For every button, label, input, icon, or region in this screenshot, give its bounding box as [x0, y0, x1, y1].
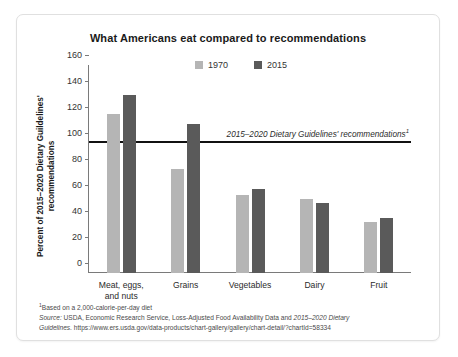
- bar-2015[interactable]: [316, 203, 329, 273]
- x-axis-label: Grains: [173, 280, 198, 291]
- x-axis-label: Vegetables: [229, 280, 272, 291]
- source-url: https://www.ers.usda.gov/data-products/c…: [72, 324, 331, 331]
- source-italic-b: Guidelines.: [39, 324, 72, 331]
- bar-groups: Meat, eggs,and nutsGrainsVegetablesDairy…: [89, 65, 411, 273]
- y-axis-tick: 80: [72, 154, 89, 164]
- y-axis-tick: 160: [67, 50, 89, 60]
- bar-group: Vegetables: [218, 65, 282, 273]
- y-axis-tick: 0: [77, 258, 89, 268]
- bar-1970[interactable]: [364, 222, 377, 273]
- source-line-2: Guidelines. https://www.ers.usda.gov/dat…: [39, 323, 423, 333]
- chart-footnotes: 1Based on a 2,000-calorie-per-day diet S…: [39, 302, 423, 333]
- bar-2015[interactable]: [252, 189, 265, 274]
- y-axis-tick: 20: [72, 232, 89, 242]
- bar-1970[interactable]: [300, 199, 313, 273]
- plot-wrapper: Percent of 2015–2020 Dietary Guildelines…: [17, 15, 439, 340]
- bar-1970[interactable]: [236, 195, 249, 273]
- y-axis-tick: 120: [67, 102, 89, 112]
- x-axis-label: Dairy: [304, 280, 324, 291]
- source-line-1: Source: USDA, Economic Research Service,…: [39, 313, 423, 323]
- bar-2015[interactable]: [187, 124, 200, 274]
- y-axis-tick: 100: [67, 128, 89, 138]
- bar-group: Dairy: [282, 65, 346, 273]
- footnote-line: 1Based on a 2,000-calorie-per-day diet: [39, 302, 423, 313]
- bar-2015[interactable]: [380, 218, 393, 273]
- x-axis-label: Fruit: [370, 280, 387, 291]
- bar-1970[interactable]: [171, 169, 184, 273]
- bar-1970[interactable]: [107, 114, 120, 273]
- footnote-text: Based on a 2,000-calorie-per-day diet: [42, 304, 152, 311]
- source-prefix: Source:: [39, 314, 62, 321]
- bar-group: Fruit: [347, 65, 411, 273]
- y-axis-tick: 60: [72, 180, 89, 190]
- source-text-a: USDA, Economic Research Service, Loss-Ad…: [62, 314, 294, 321]
- source-italic-a: 2015–2020 Dietary: [294, 314, 350, 321]
- bar-group: Meat, eggs,and nuts: [89, 65, 153, 273]
- y-axis-tick: 140: [67, 76, 89, 86]
- plot-area: 020406080100120140160 2015–2020 Dietary …: [89, 65, 411, 273]
- y-axis-title: Percent of 2015–2020 Dietary Guildelines…: [35, 81, 57, 271]
- chart-card: What Americans eat compared to recommend…: [16, 14, 440, 341]
- bar-group: Grains: [153, 65, 217, 273]
- bar-2015[interactable]: [123, 95, 136, 273]
- x-axis-label: Meat, eggs,and nuts: [99, 280, 144, 301]
- y-axis-tick: 40: [72, 206, 89, 216]
